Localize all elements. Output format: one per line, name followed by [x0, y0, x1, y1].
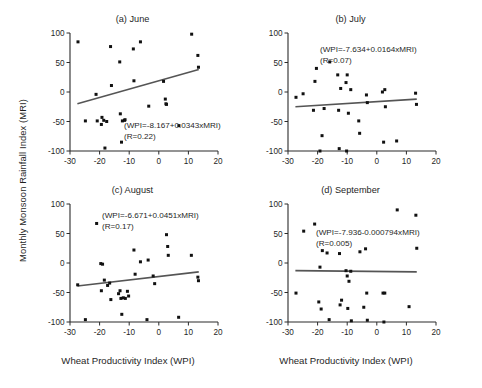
panel-august: (c) August -100-50050100-30-20-1001020(W… — [40, 185, 225, 348]
svg-text:(R=0.005): (R=0.005) — [316, 239, 353, 248]
svg-text:-20: -20 — [94, 328, 106, 337]
plot-area-june: -100-50050100-30-20-1001020(WPI=-8.167+0… — [40, 27, 225, 177]
svg-text:(WPI=-7.936-0.000794xMRI): (WPI=-7.936-0.000794xMRI) — [316, 228, 420, 237]
svg-text:20: 20 — [213, 157, 223, 166]
panel-june: (a) June -100-50050100-30-20-1001020(WPI… — [40, 14, 225, 177]
svg-text:0: 0 — [375, 328, 380, 337]
svg-text:-10: -10 — [123, 328, 135, 337]
svg-text:0: 0 — [60, 88, 65, 97]
svg-text:(WPI=-8.167+0.0343xMRI): (WPI=-8.167+0.0343xMRI) — [124, 121, 221, 130]
svg-text:20: 20 — [431, 157, 441, 166]
svg-text:0: 0 — [157, 157, 162, 166]
plot-area-september: -100-50050100-30-20-1001020(WPI=-7.936-0… — [258, 198, 443, 348]
svg-text:-50: -50 — [271, 289, 283, 298]
panel-september: (d) September -100-50050100-30-20-100102… — [258, 185, 443, 348]
svg-text:-30: -30 — [64, 328, 76, 337]
panel-july: (b) July -100-50050100-30-20-1001020(WPI… — [258, 14, 443, 177]
svg-text:50: 50 — [273, 230, 283, 239]
figure-container: Monthly Monsoon Rainfall Index (MRI) (a)… — [0, 0, 482, 388]
panel-title-june: (a) June — [40, 14, 225, 24]
svg-text:-20: -20 — [312, 157, 324, 166]
plot-area-july: -100-50050100-30-20-1001020(WPI=-7.634+0… — [258, 27, 443, 177]
svg-text:0: 0 — [278, 259, 283, 268]
svg-text:-10: -10 — [123, 157, 135, 166]
svg-text:-30: -30 — [282, 328, 294, 337]
panel-title-september: (d) September — [258, 185, 443, 195]
panel-title-august: (c) August — [40, 185, 225, 195]
svg-text:0: 0 — [60, 259, 65, 268]
svg-text:10: 10 — [184, 157, 194, 166]
svg-text:-10: -10 — [341, 157, 353, 166]
svg-text:50: 50 — [55, 59, 65, 68]
svg-text:50: 50 — [273, 59, 283, 68]
svg-text:100: 100 — [269, 29, 283, 38]
svg-text:-100: -100 — [48, 147, 65, 156]
svg-text:10: 10 — [402, 157, 412, 166]
svg-text:0: 0 — [157, 328, 162, 337]
svg-text:-50: -50 — [53, 289, 65, 298]
scatter-plot-august: -100-50050100-30-20-1001020(WPI=-6.671+0… — [40, 198, 225, 348]
svg-text:(R=0.22): (R=0.22) — [124, 132, 156, 141]
svg-text:10: 10 — [184, 328, 194, 337]
svg-text:50: 50 — [55, 230, 65, 239]
svg-text:-20: -20 — [312, 328, 324, 337]
svg-text:100: 100 — [51, 29, 65, 38]
x-axis-title-right: Wheat Productivity Index (WPI) — [246, 355, 446, 366]
svg-text:(R=0.07): (R=0.07) — [320, 56, 352, 65]
svg-text:-20: -20 — [94, 157, 106, 166]
x-axis-title-left: Wheat Productivity Index (WPI) — [28, 355, 228, 366]
y-axis-title: Monthly Monsoon Rainfall Index (MRI) — [17, 36, 28, 326]
svg-text:0: 0 — [278, 88, 283, 97]
svg-text:100: 100 — [51, 200, 65, 209]
svg-text:0: 0 — [375, 157, 380, 166]
scatter-plot-july: -100-50050100-30-20-1001020(WPI=-7.634+0… — [258, 27, 443, 177]
svg-text:(WPI=-6.671+0.0451xMRI): (WPI=-6.671+0.0451xMRI) — [102, 211, 199, 220]
svg-text:20: 20 — [431, 328, 441, 337]
svg-text:-100: -100 — [266, 318, 283, 327]
scatter-plot-september: -100-50050100-30-20-1001020(WPI=-7.936-0… — [258, 198, 443, 348]
plot-area-august: -100-50050100-30-20-1001020(WPI=-6.671+0… — [40, 198, 225, 348]
svg-text:100: 100 — [269, 200, 283, 209]
svg-text:-50: -50 — [271, 118, 283, 127]
svg-text:-100: -100 — [48, 318, 65, 327]
svg-text:(R=0.17): (R=0.17) — [102, 222, 134, 231]
svg-text:-100: -100 — [266, 147, 283, 156]
svg-text:-50: -50 — [53, 118, 65, 127]
svg-text:(WPI=-7.634+0.0164xMRI): (WPI=-7.634+0.0164xMRI) — [320, 45, 417, 54]
svg-text:-30: -30 — [64, 157, 76, 166]
svg-text:20: 20 — [213, 328, 223, 337]
svg-text:-30: -30 — [282, 157, 294, 166]
svg-text:-10: -10 — [341, 328, 353, 337]
svg-text:10: 10 — [402, 328, 412, 337]
scatter-plot-june: -100-50050100-30-20-1001020(WPI=-8.167+0… — [40, 27, 225, 177]
panel-title-july: (b) July — [258, 14, 443, 24]
